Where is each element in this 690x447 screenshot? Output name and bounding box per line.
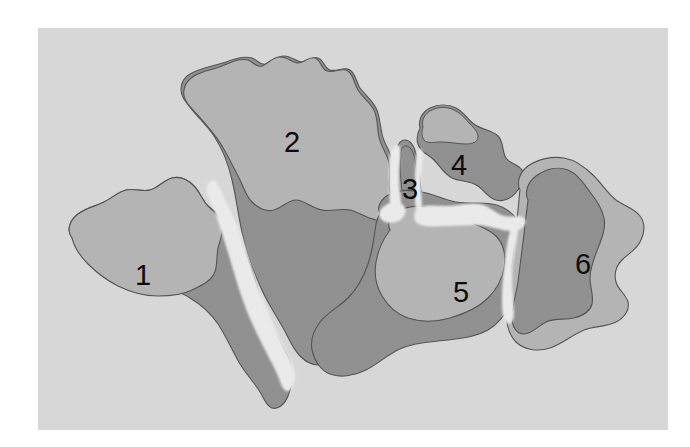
fragment-label-2: 2 (284, 126, 300, 158)
figure-plate: 1 2 3 4 5 6 (0, 0, 690, 447)
fragment-label-5: 5 (453, 276, 469, 308)
plate-content: 1 2 3 4 5 6 (38, 28, 668, 430)
fragment-label-3: 3 (402, 173, 418, 205)
fragment-label-6: 6 (575, 248, 591, 280)
map-figure-svg: 1 2 3 4 5 6 (0, 0, 690, 447)
fragment-label-1: 1 (135, 259, 151, 291)
fragment-label-4: 4 (451, 149, 467, 181)
paper-grain (38, 28, 668, 430)
